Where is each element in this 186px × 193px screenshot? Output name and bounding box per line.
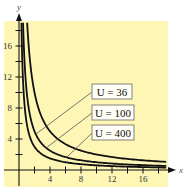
indifference-curves-chart: 4 8 12 16 4 8 12 16 x y U = 36 U = 100 U… [0,0,186,193]
x-tick-label-12: 12 [108,174,117,184]
x-axis-label: x [178,165,183,175]
y-tick-label-16: 16 [3,41,13,51]
legend-label-u400: U = 400 [95,127,132,139]
legend-label-u100: U = 100 [95,107,132,119]
y-axis-label: y [16,2,21,12]
y-tick-label-4: 4 [8,134,13,144]
x-tick-label-16: 16 [139,174,149,184]
legend-box-u400: U = 400 [92,125,134,140]
y-tick-label-8: 8 [8,103,13,113]
legend-box-u100: U = 100 [92,105,134,120]
y-axis-arrow-icon [16,13,22,21]
y-tick-label-12: 12 [3,72,12,82]
legend-box-u36: U = 36 [92,84,132,99]
x-tick-label-8: 8 [79,174,84,184]
x-axis-arrow-icon [168,167,176,173]
legend-label-u36: U = 36 [97,86,128,98]
x-tick-label-4: 4 [48,174,53,184]
